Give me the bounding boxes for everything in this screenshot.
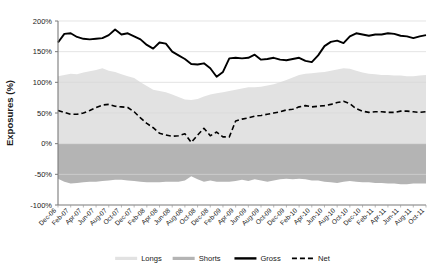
legend-swatch [173,257,195,260]
exposures-chart: -100%-50%0%50%100%150%200%Exposures (%)D… [0,0,446,273]
y-axis-title: Exposures (%) [4,80,15,146]
legend-label: Net [318,254,331,263]
y-tick-label: -50% [34,170,52,179]
legend-item-net: Net [292,254,331,263]
area-shorts [58,144,426,184]
chart-canvas: -100%-50%0%50%100%150%200%Exposures (%)D… [0,0,446,273]
y-tick-label: 0% [41,139,52,148]
y-tick-label: 150% [33,47,53,56]
legend-item-gross: Gross [234,254,280,263]
legend-label: Shorts [199,254,221,263]
y-tick-label: 100% [33,78,53,87]
y-tick-label: -100% [30,201,52,210]
legend-swatch [115,257,137,260]
legend-label: Longs [141,254,162,263]
legend-label: Gross [260,254,280,263]
y-tick-label: 200% [33,17,53,26]
legend-item-longs: Longs [115,254,162,263]
legend-item-shorts: Shorts [173,254,221,263]
y-tick-label: 50% [37,109,52,118]
